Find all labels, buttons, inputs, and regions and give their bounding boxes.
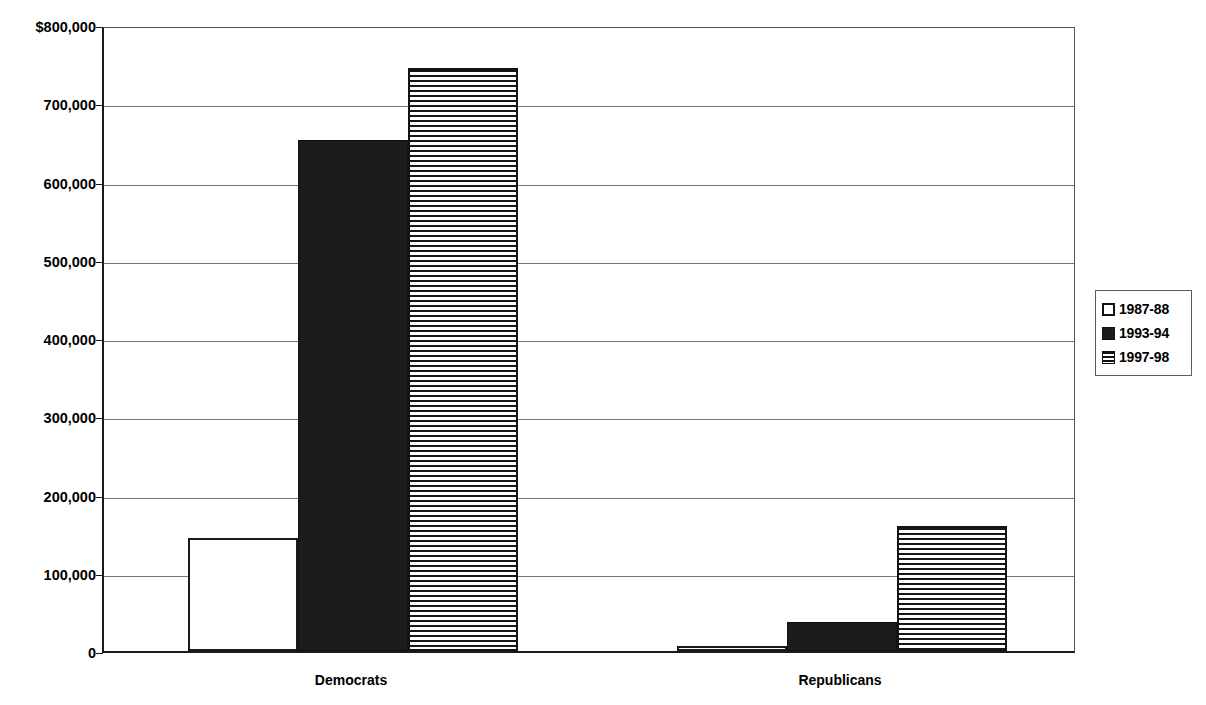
x-axis-category-label: Republicans: [740, 672, 940, 688]
legend-item-label: 1997-98: [1119, 349, 1169, 365]
legend-item-label: 1987-88: [1119, 301, 1169, 317]
legend: 1987-881993-941997-98: [1095, 290, 1192, 376]
gridline: [104, 419, 1074, 420]
bar: [787, 622, 897, 651]
bar: [897, 526, 1007, 651]
gridline: [104, 263, 1074, 264]
legend-item: 1997-98: [1102, 345, 1186, 369]
y-axis-tick-label: 700,000: [0, 97, 96, 113]
bar-chart: $800,000700,000600,000500,000400,000300,…: [0, 0, 1206, 705]
legend-item: 1993-94: [1102, 321, 1186, 345]
legend-swatch-empty-icon: [1102, 303, 1115, 316]
x-axis-category-label: Democrats: [251, 672, 451, 688]
gridline: [104, 106, 1074, 107]
gridline: [104, 341, 1074, 342]
plot-area: [102, 27, 1075, 653]
gridline: [104, 498, 1074, 499]
y-axis-tick-mark: [96, 653, 103, 654]
legend-swatch-solid-icon: [1102, 327, 1115, 340]
legend-item-label: 1993-94: [1119, 325, 1169, 341]
y-axis-tick-label: 400,000: [0, 332, 96, 348]
legend-swatch-striped-icon: [1102, 351, 1115, 364]
y-axis-tick-label: $800,000: [0, 19, 96, 35]
y-axis-tick-label: 0: [0, 645, 96, 661]
bar: [188, 538, 298, 651]
gridline: [104, 185, 1074, 186]
bar: [408, 68, 518, 651]
y-axis-tick-label: 500,000: [0, 254, 96, 270]
y-axis-tick-label: 600,000: [0, 176, 96, 192]
y-axis-tick-label: 300,000: [0, 410, 96, 426]
y-axis-tick-label: 100,000: [0, 567, 96, 583]
bar: [677, 646, 787, 651]
bar: [298, 140, 408, 651]
legend-item: 1987-88: [1102, 297, 1186, 321]
y-axis-tick-label: 200,000: [0, 489, 96, 505]
